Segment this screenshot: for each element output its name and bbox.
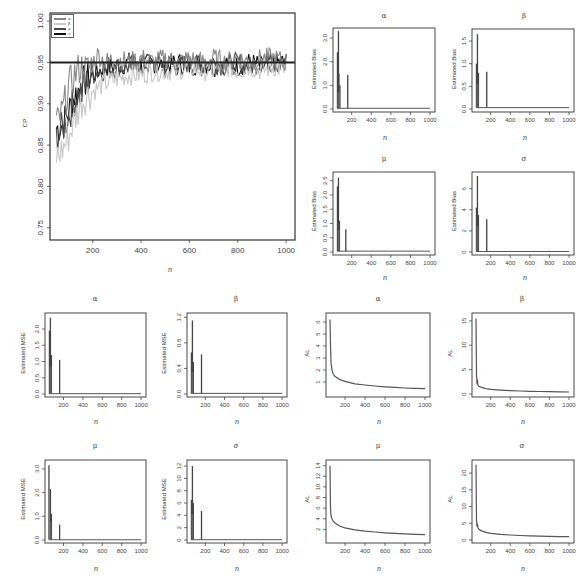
svg-text:200: 200 xyxy=(200,548,211,554)
bias-sigma-title: σ xyxy=(514,155,534,163)
svg-text:8: 8 xyxy=(176,488,182,492)
mse-sigma-y-label: Estimated MSE xyxy=(161,474,167,524)
svg-text:1.0: 1.0 xyxy=(34,357,40,366)
svg-text:1.0: 1.0 xyxy=(461,59,467,68)
bias-beta-x-label: n xyxy=(515,134,535,142)
cp-plot-area: 20040060080010000.750.800.850.900.951.00 xyxy=(0,0,300,290)
al-mu-chart: 20040060080010002468101214 xyxy=(315,460,432,554)
legend-swatch-beta xyxy=(54,23,66,25)
al-mu-title: μ xyxy=(368,442,388,450)
svg-text:1000: 1000 xyxy=(562,402,576,408)
svg-text:400: 400 xyxy=(505,402,516,408)
svg-text:600: 600 xyxy=(386,260,397,266)
svg-text:15: 15 xyxy=(461,317,467,324)
legend-item-sigma: σ xyxy=(54,31,71,36)
svg-text:0.0: 0.0 xyxy=(322,104,328,113)
svg-text:10: 10 xyxy=(461,503,467,510)
al-beta-y-label: AL xyxy=(447,338,453,368)
svg-text:15: 15 xyxy=(461,486,467,493)
bias-sigma-x-label: n xyxy=(515,274,535,282)
svg-text:3.0: 3.0 xyxy=(34,464,40,473)
svg-text:2.5: 2.5 xyxy=(322,176,328,185)
svg-text:200: 200 xyxy=(486,402,497,408)
svg-text:6: 6 xyxy=(461,186,467,190)
cp-x-axis-label: n xyxy=(160,266,180,274)
mse-beta-x-label: n xyxy=(227,418,247,426)
svg-text:4: 4 xyxy=(315,344,321,348)
svg-text:12: 12 xyxy=(315,472,321,479)
svg-text:1000: 1000 xyxy=(562,260,576,266)
mse-mu-chart: 20040060080010000.01.02.03.0 xyxy=(34,460,148,554)
bias-alpha-x-label: n xyxy=(375,134,395,142)
al-mu-x-label: n xyxy=(369,565,389,573)
svg-text:200: 200 xyxy=(347,260,358,266)
svg-text:600: 600 xyxy=(380,548,391,554)
al-sigma-chart: 200400600800100005101520 xyxy=(461,460,576,554)
al-mu-y-label: AL xyxy=(304,484,310,514)
svg-text:800: 800 xyxy=(544,260,555,266)
bias-beta-title: β xyxy=(514,12,534,20)
svg-text:200: 200 xyxy=(340,402,351,408)
svg-text:2.0: 2.0 xyxy=(322,57,328,66)
svg-text:600: 600 xyxy=(525,402,536,408)
svg-text:200: 200 xyxy=(347,117,358,123)
mse-alpha-title: α xyxy=(85,295,105,303)
svg-text:1000: 1000 xyxy=(275,402,289,408)
svg-text:2: 2 xyxy=(315,368,321,372)
svg-text:0.85: 0.85 xyxy=(36,137,45,153)
svg-text:200: 200 xyxy=(340,548,351,554)
svg-text:200: 200 xyxy=(59,402,70,408)
cp-legend: α β μ σ xyxy=(51,14,74,38)
bias-beta-y-label: Estimated Bias xyxy=(451,44,457,94)
cp-chart: 20040060080010000.750.800.850.900.951.00 xyxy=(36,13,296,255)
svg-text:0.0: 0.0 xyxy=(34,389,40,398)
al-sigma-y-label: AL xyxy=(447,484,453,514)
svg-text:800: 800 xyxy=(405,260,416,266)
svg-text:1000: 1000 xyxy=(423,260,437,266)
svg-text:0.8: 0.8 xyxy=(176,338,182,347)
svg-text:1000: 1000 xyxy=(562,548,576,554)
bias-alpha-title: α xyxy=(374,12,394,20)
svg-text:800: 800 xyxy=(231,246,245,255)
svg-text:5: 5 xyxy=(461,367,467,371)
svg-text:0.5: 0.5 xyxy=(34,373,40,382)
svg-text:10: 10 xyxy=(176,474,182,481)
svg-text:0: 0 xyxy=(176,538,182,542)
svg-text:1.0: 1.0 xyxy=(322,219,328,228)
svg-text:5: 5 xyxy=(461,521,467,525)
svg-text:2: 2 xyxy=(176,525,182,529)
svg-text:1000: 1000 xyxy=(134,548,148,554)
al-beta-title: β xyxy=(512,295,532,303)
svg-text:0.4: 0.4 xyxy=(176,364,182,373)
bias-beta-chart: 20040060080010000.00.51.01.5 xyxy=(461,29,576,123)
mse-beta-y-label: Estimated MSE xyxy=(161,328,167,378)
mse-alpha-y-label: Estimated MSE xyxy=(20,328,26,378)
bias-sigma-chart: 20040060080010000246 xyxy=(461,172,576,266)
svg-text:1.00: 1.00 xyxy=(36,13,45,29)
bias-alpha-chart: 20040060080010000.01.02.03.0 xyxy=(322,28,437,123)
svg-text:2.0: 2.0 xyxy=(34,488,40,497)
svg-text:800: 800 xyxy=(258,402,269,408)
svg-text:4: 4 xyxy=(315,516,321,520)
svg-text:600: 600 xyxy=(386,117,397,123)
svg-text:400: 400 xyxy=(366,260,377,266)
svg-text:1000: 1000 xyxy=(134,402,148,408)
bias-sigma-y-label: Estimated Bias xyxy=(451,186,457,236)
svg-text:400: 400 xyxy=(360,548,371,554)
mse-beta-title: β xyxy=(226,295,246,303)
svg-text:600: 600 xyxy=(239,548,250,554)
svg-text:1.5: 1.5 xyxy=(322,204,328,213)
svg-text:1000: 1000 xyxy=(277,246,295,255)
svg-text:5: 5 xyxy=(315,332,321,336)
svg-text:200: 200 xyxy=(486,548,497,554)
mse-mu-title: μ xyxy=(85,442,105,450)
svg-text:1000: 1000 xyxy=(418,402,432,408)
cp-y-axis-label: CP xyxy=(22,108,28,138)
bias-mu-title: μ xyxy=(374,155,394,163)
svg-text:600: 600 xyxy=(97,548,108,554)
svg-text:0.80: 0.80 xyxy=(36,178,45,194)
svg-text:400: 400 xyxy=(220,402,231,408)
svg-text:1.0: 1.0 xyxy=(34,511,40,520)
al-sigma-title: σ xyxy=(512,442,532,450)
svg-text:2: 2 xyxy=(461,229,467,233)
